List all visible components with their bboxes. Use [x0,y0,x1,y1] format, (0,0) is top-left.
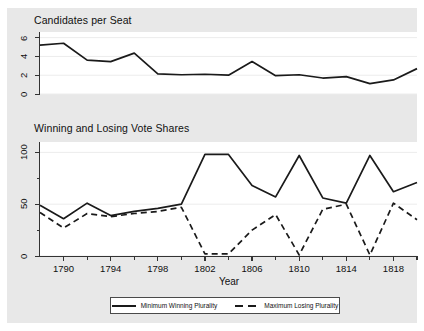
x-tick [299,256,300,261]
x-tick-label: 1806 [232,263,272,274]
x-tick-label: 1798 [138,263,178,274]
x-tick-label: 1810 [279,263,319,274]
y-tick-label: 0 [18,242,32,270]
figure-root: Candidates per Seat 0246 Winning and Los… [0,0,424,331]
dashed-line-key-icon [235,301,259,311]
x-tick [87,256,88,260]
legend-label-maximum-losing-plurality: Maximum Losing Plurality [264,302,338,309]
series-line [40,154,417,218]
legend: Minimum Winning Plurality Maximum Losing… [110,297,340,314]
x-tick [181,256,182,260]
x-tick-label: 1790 [44,263,84,274]
x-tick [228,256,229,260]
series-line [40,203,417,255]
x-tick [416,256,417,260]
x-tick-label: 1794 [91,263,131,274]
x-tick-label: 1814 [326,263,366,274]
x-tick [322,256,323,260]
y-axis-line-bottom [39,142,40,256]
x-tick [346,256,347,261]
x-tick [275,256,276,260]
x-tick [251,256,252,261]
y-tick [35,256,40,257]
x-tick [63,256,64,261]
x-tick [110,256,111,261]
x-tick-label: 1802 [185,263,225,274]
x-tick [369,256,370,260]
x-axis-title: Year [189,276,269,287]
solid-line-key-icon [112,301,136,311]
x-tick [393,256,394,261]
y-tick [35,152,40,153]
y-tick-label: 100 [18,138,32,166]
legend-entry-maximum-losing-plurality[interactable]: Maximum Losing Plurality [235,301,338,311]
legend-label-minimum-winning-plurality: Minimum Winning Plurality [141,302,218,309]
y-tick-label: 50 [18,190,32,218]
legend-entry-minimum-winning-plurality[interactable]: Minimum Winning Plurality [112,301,218,311]
x-tick [134,256,135,260]
y-tick [37,178,41,179]
x-tick [157,256,158,261]
y-tick [35,204,40,205]
x-tick [204,256,205,261]
y-tick [37,230,41,231]
x-tick-label: 1818 [373,263,413,274]
